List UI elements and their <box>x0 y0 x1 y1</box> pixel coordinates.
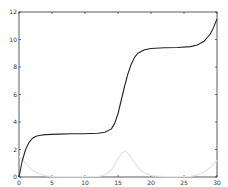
plot-area <box>19 12 217 177</box>
x-tick-label: 0 <box>17 179 21 186</box>
y-tick-label: 6 <box>13 91 17 98</box>
x-tick-label: 15 <box>114 179 122 186</box>
y-tick-label: 0 <box>13 173 17 180</box>
y-tick-label: 10 <box>9 36 17 43</box>
x-tick-label: 30 <box>213 179 221 186</box>
y-tick-label: 4 <box>13 118 17 125</box>
x-tick-label: 5 <box>50 179 54 186</box>
y-tick-label: 12 <box>9 8 17 15</box>
y-tick-label: 2 <box>13 146 17 153</box>
line-chart: 051015202530 024681012 <box>0 0 228 187</box>
x-tick-label: 10 <box>81 179 89 186</box>
y-tick-label: 8 <box>13 63 17 70</box>
x-tick-label: 20 <box>147 179 155 186</box>
x-tick-label: 25 <box>180 179 188 186</box>
